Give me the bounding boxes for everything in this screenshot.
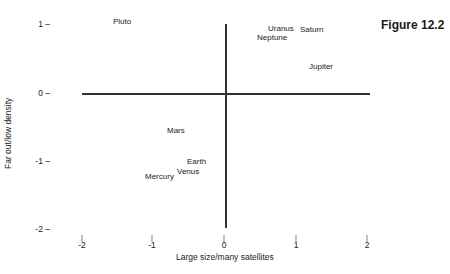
point-label-mars: Mars — [167, 126, 185, 135]
figure-title: Figure 12.2 — [381, 18, 444, 32]
point-label-earth: Earth — [187, 157, 206, 166]
y-tick-neg2: -2 – — [24, 224, 50, 234]
x-tick-neg1: |-1 — [145, 234, 159, 249]
point-label-jupiter: Jupiter — [309, 62, 333, 71]
y-tick-1: 1 – — [24, 19, 50, 29]
x-axis-label: Large size/many satellites — [176, 252, 274, 262]
point-label-uranus: Uranus — [268, 24, 294, 33]
y-axis-label: Far out/low density — [3, 98, 13, 169]
x-tick-1: |1 — [289, 234, 303, 249]
point-label-neptune: Neptune — [257, 33, 287, 42]
point-label-saturn: Saturn — [300, 25, 324, 34]
point-label-venus: Venus — [177, 167, 199, 176]
x-tick-2: |2 — [360, 234, 374, 249]
y-tick-neg1: -1 – — [24, 156, 50, 166]
x-tick-0: |0 — [217, 234, 231, 249]
x-tick-neg2: |-2 — [75, 234, 89, 249]
y-axis-line — [225, 24, 227, 228]
y-tick-0: 0 – — [24, 88, 50, 98]
point-label-pluto: Pluto — [113, 17, 131, 26]
point-label-mercury: Mercury — [145, 172, 174, 181]
